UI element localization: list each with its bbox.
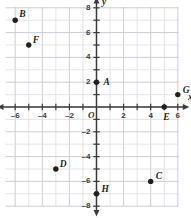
- data-point-B[interactable]: [13, 18, 18, 23]
- x-tick-label-6: 6: [176, 112, 180, 120]
- point-label-D: D: [60, 160, 67, 170]
- y-tick-label-8: 8: [86, 4, 90, 12]
- data-point-F[interactable]: [26, 42, 31, 47]
- x-tick-label--6: –6: [11, 112, 20, 120]
- y-axis-label: y: [102, 0, 106, 8]
- data-point-C[interactable]: [148, 179, 153, 184]
- y-tick-label--2: –2: [82, 128, 91, 136]
- x-axis-arrow-right: [183, 104, 190, 110]
- y-axis-arrow-down: [94, 210, 100, 217]
- y-tick-label-4: 4: [86, 53, 90, 61]
- point-label-C: C: [156, 172, 162, 182]
- x-axis-arrow-left: [0, 104, 4, 110]
- data-point-G[interactable]: [175, 92, 180, 97]
- data-point-A[interactable]: [94, 80, 99, 85]
- point-label-H: H: [102, 185, 109, 195]
- y-tick-label--4: –4: [82, 153, 91, 161]
- x-tick-label--4: –4: [38, 112, 47, 120]
- data-point-H[interactable]: [94, 191, 99, 196]
- x-axis-label: x: [188, 93, 191, 103]
- origin-label: O: [88, 111, 95, 120]
- y-tick-label--6: –6: [82, 177, 91, 185]
- coordinate-plane-figure: ABCDEFGHxyO–6–4–22468642–2–4–6–8: [0, 0, 191, 218]
- data-point-D[interactable]: [53, 166, 58, 171]
- y-tick-label--8: –8: [82, 202, 91, 210]
- point-label-F: F: [33, 36, 39, 46]
- x-tick-label-4: 4: [148, 112, 152, 120]
- point-label-A: A: [104, 78, 110, 88]
- x-tick-label-2: 2: [121, 112, 125, 120]
- y-tick-label-2: 2: [86, 78, 90, 86]
- x-tick-label--2: –2: [65, 112, 74, 120]
- y-tick-label-6: 6: [86, 29, 90, 37]
- y-axis-arrow-up: [94, 0, 100, 4]
- data-point-E[interactable]: [162, 104, 167, 109]
- coordinate-grid-svg: [0, 0, 191, 218]
- point-label-B: B: [19, 10, 25, 20]
- point-label-E: E: [163, 113, 169, 123]
